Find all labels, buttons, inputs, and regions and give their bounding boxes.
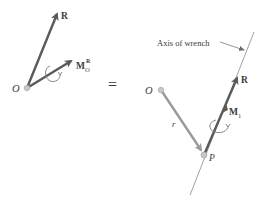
moment-label-right: M <box>229 107 238 117</box>
origin-point-right <box>158 87 164 93</box>
position-vector-label: r <box>172 119 176 129</box>
moment-label-left-sup: R <box>86 58 91 64</box>
axis-annotation-leader <box>220 42 244 50</box>
equals-sign: = <box>108 76 117 93</box>
resultant-label-left: R <box>61 11 68 21</box>
axis-annotation-label: Axis of wrench <box>157 38 210 48</box>
origin-point-left <box>24 85 30 91</box>
right-wrench-system: Axis of wrench O P r R M 1 <box>145 32 254 195</box>
moment-label-left: M <box>76 61 85 71</box>
position-vector-r <box>161 90 201 150</box>
wrench-equivalence-diagram: O R M O R = Axis of wrench O P r R M 1 <box>0 0 265 198</box>
point-p-label: P <box>208 153 215 163</box>
resultant-label-right: R <box>241 75 248 85</box>
left-force-couple-system: O R M O R <box>12 11 91 94</box>
origin-label-left: O <box>12 83 20 94</box>
moment-label-right-sub: 1 <box>238 112 241 119</box>
resultant-vector-left <box>27 14 57 88</box>
origin-label-right: O <box>145 85 153 96</box>
point-p <box>201 152 207 158</box>
moment-label-left-sub: O <box>85 66 90 73</box>
